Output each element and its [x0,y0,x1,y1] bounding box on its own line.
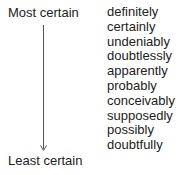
most-certain-label: Most certain [8,5,79,20]
word-item: apparently [107,64,175,79]
word-item: possibly [107,123,175,138]
certainty-word-list: definitely certainly undeniably doubtles… [107,5,175,153]
word-item: conceivably [107,94,175,109]
word-item: undeniably [107,35,175,50]
word-item: probably [107,79,175,94]
word-item: certainly [107,20,175,35]
word-item: doubtlessly [107,49,175,64]
word-item: doubtfully [107,138,175,153]
word-item: supposedly [107,109,175,124]
down-arrow-icon [40,145,47,151]
word-item: definitely [107,5,175,20]
certainty-axis-line [43,25,44,149]
least-certain-label: Least certain [8,153,82,168]
